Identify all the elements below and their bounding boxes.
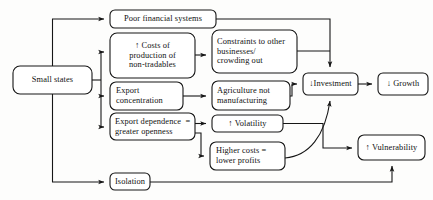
node-poor-financial-systems[interactable] xyxy=(110,10,216,28)
node-vulnerability[interactable] xyxy=(358,135,425,160)
node-volatility[interactable] xyxy=(212,115,283,132)
node-export-concentration[interactable] xyxy=(110,82,183,110)
node-costs-of-production[interactable] xyxy=(110,33,195,78)
node-agriculture-not-manufacturing[interactable] xyxy=(212,81,290,110)
node-layer xyxy=(13,10,428,190)
node-constraints-to-other-businesses[interactable] xyxy=(212,30,297,73)
edge-volatility-to-vulnerability xyxy=(283,124,352,149)
node-higher-costs-lower-profits[interactable] xyxy=(210,142,285,170)
node-export-dependence[interactable] xyxy=(110,113,195,140)
edge-export-dependence-to-higher-costs xyxy=(195,133,204,156)
edge-small-states-to-poor-financial-systems xyxy=(53,19,105,66)
node-isolation[interactable] xyxy=(110,173,150,190)
node-investment[interactable] xyxy=(303,73,358,95)
node-small-states[interactable] xyxy=(13,66,92,94)
node-growth[interactable] xyxy=(378,73,428,95)
edge-small-states-to-isolation xyxy=(53,94,105,182)
flowchart-canvas xyxy=(0,0,433,200)
edge-agriculture-to-investment xyxy=(290,84,297,96)
flowchart-diagram: Small states Poor financial systems ↑ Co… xyxy=(0,0,433,200)
